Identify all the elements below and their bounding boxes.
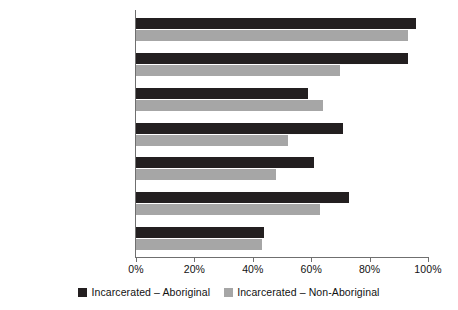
bar: [136, 204, 320, 215]
x-tick-mark: [428, 257, 429, 262]
x-tick-label: 100%: [414, 263, 441, 275]
bar: [136, 123, 343, 134]
x-tick-label: 40%: [242, 263, 263, 275]
bar: [136, 18, 416, 29]
bar: [136, 65, 340, 76]
bar: [136, 135, 288, 146]
bar: [136, 227, 264, 238]
legend-entry: Incarcerated – Non-Aboriginal: [224, 286, 379, 298]
plot-area: [136, 12, 428, 256]
legend-entry: Incarcerated – Aboriginal: [78, 286, 210, 298]
bar: [136, 239, 262, 250]
legend-label: Incarcerated – Non-Aboriginal: [237, 286, 379, 298]
bar-chart: 0%20%40%60%80%100% Personal/emotionalSub…: [0, 0, 458, 310]
x-tick-mark: [311, 257, 312, 262]
x-tick-mark: [136, 257, 137, 262]
legend-swatch-icon: [224, 288, 233, 297]
bar: [136, 192, 349, 203]
chart-legend: Incarcerated – AboriginalIncarcerated – …: [0, 286, 458, 298]
bar-group: [136, 53, 428, 76]
bar: [136, 157, 314, 168]
legend-label: Incarcerated – Aboriginal: [91, 286, 210, 298]
bar: [136, 88, 308, 99]
bar: [136, 169, 276, 180]
x-tick-label: 20%: [184, 263, 205, 275]
x-tick-label: 60%: [301, 263, 322, 275]
x-tick-mark: [370, 257, 371, 262]
bar-group: [136, 192, 428, 215]
bar-group: [136, 157, 428, 180]
x-tick-label: 0%: [128, 263, 143, 275]
x-tick-label: 80%: [359, 263, 380, 275]
x-tick-mark: [194, 257, 195, 262]
bar: [136, 53, 408, 64]
x-tick-mark: [253, 257, 254, 262]
x-axis-line: [135, 257, 429, 258]
bar: [136, 30, 408, 41]
bar-group: [136, 227, 428, 250]
legend-swatch-icon: [78, 288, 87, 297]
bar-group: [136, 18, 428, 41]
bar: [136, 100, 323, 111]
bar-group: [136, 88, 428, 111]
bar-group: [136, 123, 428, 146]
